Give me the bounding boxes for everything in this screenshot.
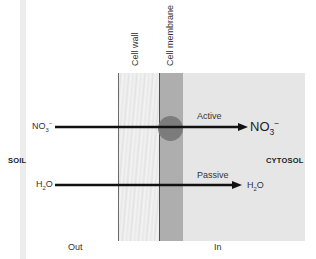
cytosol-label: CYTOSOL [266,156,304,165]
passive-label: Passive [197,170,229,180]
water-left-label: H2O [36,179,53,189]
out-label: Out [68,242,83,252]
nitrate-left-label: NO3− [32,121,52,131]
nitrate-right-label: NO3− [250,119,279,134]
passive-arrow [55,181,242,189]
in-label: In [214,242,222,252]
active-label: Active [197,111,222,121]
soil-label: SOIL [8,156,26,165]
active-arrow [55,123,248,131]
water-right-label: H2O [247,180,264,190]
